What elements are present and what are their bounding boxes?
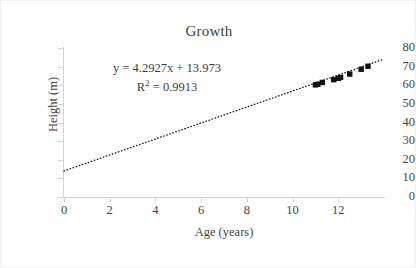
y-tick-label-60: 60 (369, 77, 415, 92)
y-tick-60 (58, 85, 63, 86)
y-axis-line (63, 47, 64, 198)
x-tick-label-2: 2 (90, 203, 130, 218)
data-point-marker (336, 76, 341, 81)
x-axis-title: Age (years) (64, 225, 384, 240)
y-tick-70 (58, 67, 63, 68)
data-point-marker (315, 82, 320, 87)
x-tick-label-8: 8 (227, 203, 267, 218)
x-tick-12 (338, 197, 339, 202)
trendline-r2-line: R2 = 0.9913 (87, 76, 247, 95)
y-tick-label-20: 20 (369, 152, 415, 167)
x-tick-label-12: 12 (318, 203, 358, 218)
y-tick-80 (58, 48, 63, 49)
data-point-marker (320, 80, 325, 85)
data-point-marker (347, 71, 352, 76)
x-tick-2 (110, 197, 111, 202)
x-tick-label-0: 0 (44, 203, 84, 218)
y-tick-30 (58, 141, 63, 142)
x-tick-8 (247, 197, 248, 202)
x-tick-10 (293, 197, 294, 202)
chart-frame: Growth Height (m) 80 70 60 50 40 30 20 1… (0, 0, 416, 268)
x-tick-label-4: 4 (135, 203, 175, 218)
trendline-equation-annotation: y = 4.2927x + 13.973 R2 = 0.9913 (87, 61, 247, 95)
y-tick-20 (58, 160, 63, 161)
data-point-marker (313, 82, 318, 87)
r2-value: = 0.9913 (150, 80, 198, 94)
y-tick-10 (58, 178, 63, 179)
data-point-marker (358, 67, 363, 72)
data-point-marker (338, 75, 343, 80)
x-tick-label-10: 10 (273, 203, 313, 218)
y-tick-label-0: 0 (369, 189, 415, 204)
x-tick-label-6: 6 (181, 203, 221, 218)
x-tick-4 (155, 197, 156, 202)
y-tick-label-40: 40 (369, 115, 415, 130)
trendline-equation-line: y = 4.2927x + 13.973 (87, 61, 247, 76)
x-tick-0 (64, 197, 65, 202)
y-tick-0 (58, 197, 63, 198)
x-tick-6 (201, 197, 202, 202)
chart-title: Growth (1, 23, 416, 40)
x-axis-line (63, 197, 385, 198)
y-tick-label-80: 80 (369, 40, 415, 55)
y-tick-label-10: 10 (369, 170, 415, 185)
r2-symbol: R (137, 80, 145, 94)
y-tick-50 (58, 104, 63, 105)
y-tick-label-70: 70 (369, 59, 415, 74)
y-tick-label-30: 30 (369, 133, 415, 148)
y-tick-40 (58, 123, 63, 124)
data-point-marker (331, 77, 336, 82)
y-tick-label-50: 50 (369, 96, 415, 111)
